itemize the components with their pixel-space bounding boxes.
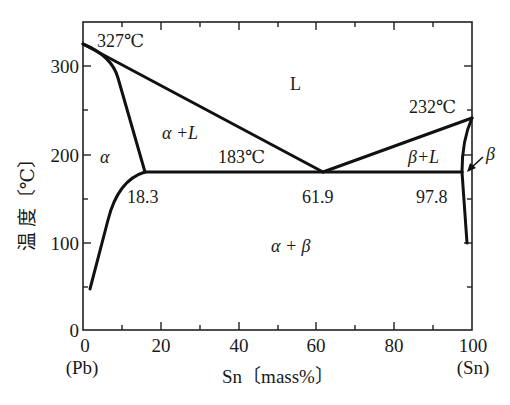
y-tick-0: 0 — [70, 320, 80, 341]
x-tick-80: 80 — [385, 335, 404, 356]
pb-melting-label: 327℃ — [97, 31, 144, 51]
y-tick-100: 100 — [51, 233, 80, 254]
x-tick-40: 40 — [230, 335, 249, 356]
alpha-limit-label: 18.3 — [127, 187, 159, 207]
phase-beta: β — [485, 144, 495, 164]
liquidus-left — [83, 44, 323, 172]
phase-liquid: L — [290, 74, 301, 94]
liquidus-right — [323, 118, 472, 172]
phase-diagram: 300 200 100 0 0 20 40 60 80 100 (Pb) (Sn… — [0, 0, 510, 405]
phase-alpha-liquid: α +L — [162, 123, 198, 143]
x-tick-60: 60 — [307, 335, 326, 356]
x-ticks — [122, 22, 433, 330]
solidus-alpha — [83, 44, 145, 172]
phase-alpha: α — [100, 147, 110, 167]
eutectic-temp-label: 183℃ — [218, 147, 265, 167]
y-tick-200: 200 — [51, 145, 80, 166]
x-axis-title: Sn〔mass%〕 — [222, 366, 334, 387]
sn-melting-label: 232℃ — [409, 97, 456, 117]
x-end-label-sn: (Sn) — [457, 357, 490, 379]
solvus-beta — [462, 172, 467, 243]
phase-alpha-beta: α + β — [271, 236, 311, 256]
eutectic-comp-label: 61.9 — [302, 187, 334, 207]
beta-arrow-icon — [467, 157, 483, 172]
y-tick-300: 300 — [51, 56, 80, 77]
x-end-label-pb: (Pb) — [66, 357, 99, 379]
phase-beta-liquid: β+L — [407, 147, 439, 167]
x-tick-0: 0 — [80, 335, 90, 356]
x-tick-100: 100 — [459, 335, 488, 356]
plot-frame — [83, 22, 472, 330]
beta-limit-label: 97.8 — [416, 187, 448, 207]
y-axis-title: 温 度〔℃〕 — [17, 149, 38, 251]
x-tick-20: 20 — [152, 335, 171, 356]
